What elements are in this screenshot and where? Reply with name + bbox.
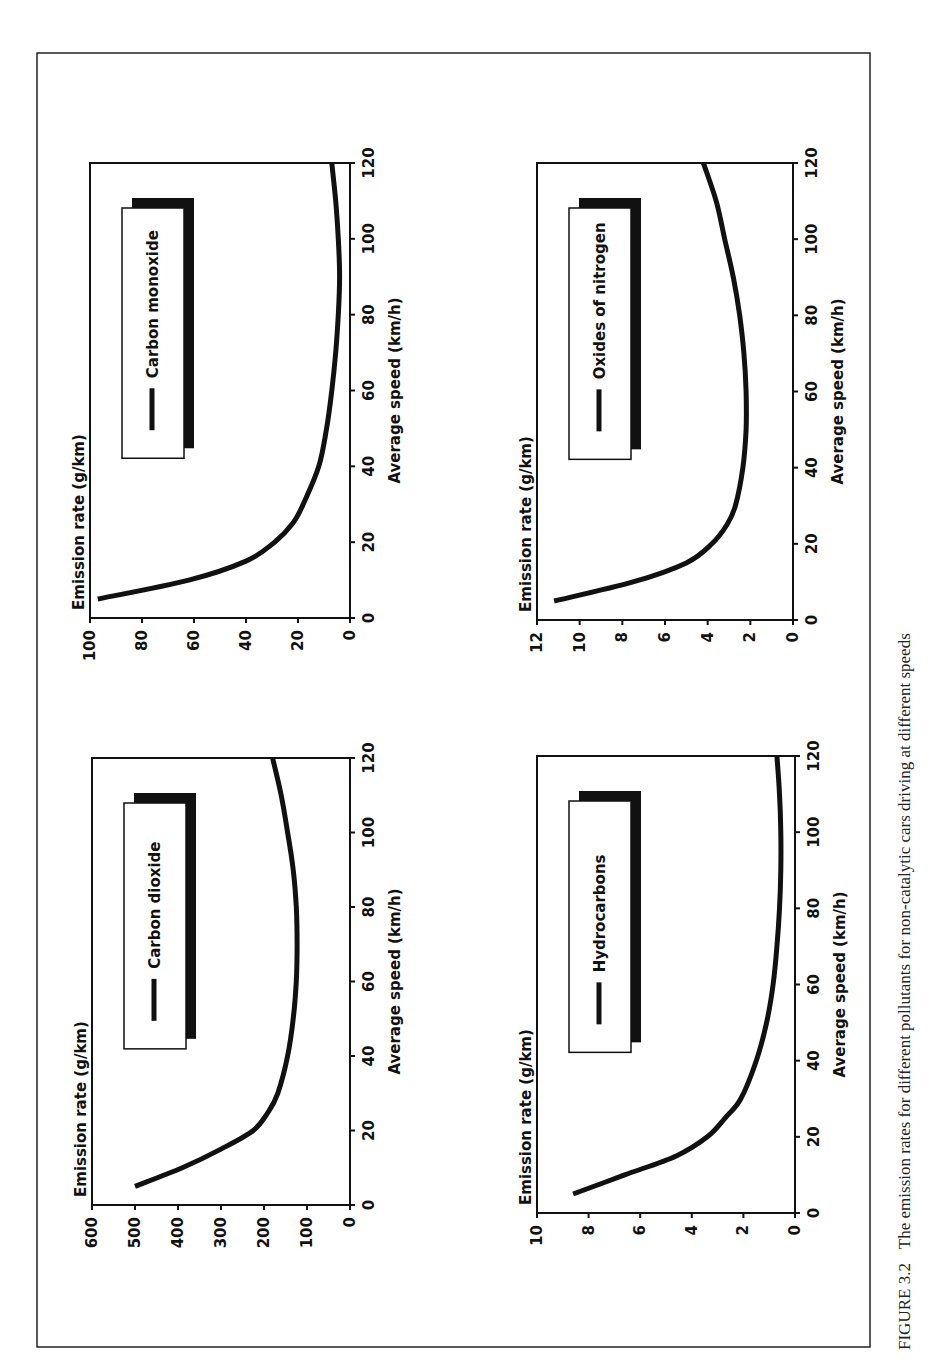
x-tick-label: 80 — [360, 897, 378, 918]
y-tick-label: 8 — [580, 1225, 598, 1235]
y-tick-label: 10 — [528, 1225, 546, 1246]
x-tick-label: 0 — [805, 1208, 823, 1218]
chart-co: 020406080100120020406080100Average speed… — [70, 147, 404, 661]
x-axis-title: Average speed (km/h) — [831, 891, 849, 1077]
y-tick-label: 200 — [255, 1217, 273, 1248]
figure-caption: FIGURE 3.2 The emission rates for differ… — [895, 633, 914, 1350]
chart-panels: 0204060801001200100200300400500600Averag… — [70, 147, 849, 1248]
x-tick-label: 40 — [360, 456, 378, 477]
x-tick-label: 80 — [803, 305, 821, 326]
x-tick-label: 100 — [360, 223, 378, 254]
x-tick-label: 100 — [805, 817, 823, 848]
x-tick-label: 60 — [805, 974, 823, 995]
x-tick-label: 120 — [803, 147, 821, 178]
x-tick-label: 80 — [360, 304, 378, 325]
y-tick-label: 0 — [784, 632, 802, 642]
x-axis-title: Average speed (km/h) — [829, 298, 847, 484]
y-tick-label: 100 — [298, 1217, 316, 1248]
y-axis-title: Emission rate (g/km) — [517, 1029, 535, 1205]
x-tick-label: 40 — [805, 1050, 823, 1071]
y-tick-label: 4 — [683, 1225, 701, 1235]
x-tick-label: 0 — [803, 615, 821, 625]
legend-label: Oxides of nitrogen — [591, 222, 609, 379]
legend-label: Carbon dioxide — [146, 841, 164, 968]
y-tick-label: 100 — [81, 630, 99, 661]
x-tick-label: 80 — [805, 898, 823, 919]
y-tick-label: 0 — [786, 1225, 804, 1235]
x-tick-label: 100 — [803, 224, 821, 255]
x-tick-label: 60 — [803, 381, 821, 402]
y-tick-label: 2 — [741, 632, 759, 642]
caption-label: FIGURE 3.2 — [895, 1263, 914, 1350]
x-tick-label: 20 — [805, 1126, 823, 1147]
y-tick-label: 20 — [289, 630, 307, 651]
x-tick-label: 0 — [360, 1200, 378, 1210]
y-tick-label: 6 — [631, 1225, 649, 1235]
y-tick-label: 0 — [341, 1217, 359, 1227]
y-tick-label: 6 — [656, 632, 674, 642]
chart-hc: 0204060801001200246810Average speed (km/… — [517, 740, 849, 1246]
caption-text: The emission rates for different polluta… — [895, 633, 914, 1249]
y-tick-label: 2 — [734, 1225, 752, 1235]
y-tick-label: 600 — [83, 1217, 101, 1248]
y-axis-title: Emission rate (g/km) — [70, 434, 88, 610]
y-tick-label: 12 — [528, 632, 546, 653]
y-tick-label: 400 — [169, 1217, 187, 1248]
x-tick-label: 120 — [360, 742, 378, 773]
x-axis-title: Average speed (km/h) — [386, 888, 404, 1074]
y-axis-title: Emission rate (g/km) — [72, 1021, 90, 1197]
x-tick-label: 100 — [360, 817, 378, 848]
x-tick-label: 120 — [805, 740, 823, 771]
y-tick-label: 300 — [212, 1217, 230, 1248]
chart-nox: 020406080100120024681012Average speed (k… — [517, 147, 847, 653]
legend-label: Carbon monoxide — [144, 230, 162, 378]
y-tick-label: 0 — [341, 630, 359, 640]
y-tick-label: 60 — [185, 630, 203, 651]
chart-co2: 0204060801001200100200300400500600Averag… — [72, 742, 404, 1248]
x-tick-label: 60 — [360, 380, 378, 401]
y-tick-label: 40 — [237, 630, 255, 651]
x-tick-label: 20 — [360, 1120, 378, 1141]
y-tick-label: 80 — [133, 630, 151, 651]
x-tick-label: 40 — [360, 1046, 378, 1067]
y-tick-label: 8 — [613, 632, 631, 642]
y-axis-title: Emission rate (g/km) — [517, 436, 535, 612]
y-tick-label: 10 — [571, 632, 589, 653]
legend-label: Hydrocarbons — [591, 854, 609, 972]
x-tick-label: 40 — [803, 457, 821, 478]
x-tick-label: 120 — [360, 147, 378, 178]
x-tick-label: 20 — [803, 533, 821, 554]
x-tick-label: 60 — [360, 971, 378, 992]
x-axis-title: Average speed (km/h) — [386, 297, 404, 483]
y-tick-label: 500 — [126, 1217, 144, 1248]
figure: 0204060801001200100200300400500600Averag… — [0, 0, 951, 1363]
x-tick-label: 0 — [360, 613, 378, 623]
y-tick-label: 4 — [699, 632, 717, 642]
x-tick-label: 20 — [360, 532, 378, 553]
